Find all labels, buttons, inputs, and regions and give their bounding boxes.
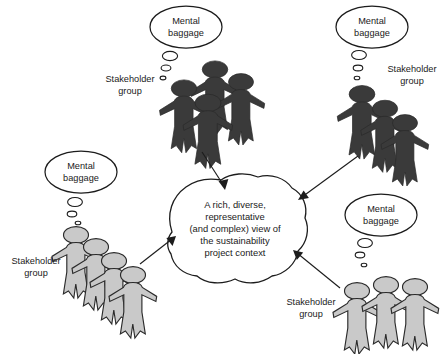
bubble-ellipse (336, 6, 408, 48)
bubble-dot-medium (355, 252, 365, 258)
bubble-line-1: Mental (172, 16, 200, 26)
bubble-line-2: baggage (354, 28, 390, 38)
bubble-ellipse (345, 194, 417, 236)
group-top-left: Mental baggage Stakeholder group (105, 6, 264, 190)
bubble-line-1: Mental (67, 161, 95, 171)
bubble-dot-small (75, 221, 81, 225)
figure-cluster-top-right (337, 86, 428, 186)
group-label-bottom-left-line-1: Stakeholder (11, 256, 60, 266)
cloud-line-1: A rich, diverse, (204, 199, 265, 210)
bubble-dot-medium (353, 65, 363, 71)
central-cloud: A rich, diverse, representative (and com… (168, 174, 308, 283)
group-bottom-right: Mental baggage Stakeholder group (286, 194, 438, 354)
thought-bubble-bottom-right: Mental baggage (345, 194, 417, 267)
cloud-line-5: project context (205, 247, 266, 258)
figure-cluster-bottom-right (333, 277, 439, 354)
group-label-bottom-right-line-2: group (299, 309, 323, 319)
bubble-dot-large (358, 239, 373, 248)
group-bottom-left: Mental baggage Stakeholder group (11, 151, 176, 338)
bubble-dot-large (162, 51, 177, 60)
figure-cluster-bottom-left (52, 227, 157, 338)
bubble-dot-large (352, 51, 367, 60)
bubble-line-1: Mental (358, 16, 386, 26)
figure-cluster-top-left (160, 61, 265, 169)
cloud-line-3: (and complex) view of (189, 223, 281, 234)
stakeholder-diagram: A rich, diverse, representative (and com… (0, 0, 441, 354)
group-label-top-right-line-2: group (400, 76, 424, 86)
person-figure (391, 279, 439, 350)
bubble-ellipse (45, 151, 117, 193)
group-label-top-left-line-2: group (118, 86, 142, 96)
cloud-line-2: representative (205, 211, 264, 222)
group-top-right: Mental baggage Stakeholder group (298, 6, 437, 200)
bubble-dot-medium (67, 211, 77, 217)
group-label-bottom-right-line-1: Stakeholder (286, 297, 335, 307)
group-label-top-right-line-1: Stakeholder (387, 64, 436, 74)
bubble-ellipse (150, 6, 222, 48)
diagram-canvas: A rich, diverse, representative (and com… (0, 0, 441, 354)
group-label-top-left-line-1: Stakeholder (105, 74, 154, 84)
bubble-dot-small (361, 263, 367, 267)
bubble-line-2: baggage (168, 28, 204, 38)
bubble-line-2: baggage (363, 216, 399, 226)
bubble-line-1: Mental (367, 204, 395, 214)
bubble-line-2: baggage (63, 173, 99, 183)
bubble-dot-small (160, 76, 166, 80)
cloud-line-4: the sustainability (200, 235, 270, 246)
bubble-dot-large (68, 198, 83, 207)
arrow-top-right-to-cloud (298, 156, 358, 200)
group-label-bottom-left-line-2: group (24, 268, 48, 278)
arrow-bottom-right-to-cloud (293, 250, 340, 288)
thought-bubble-bottom-left: Mental baggage (45, 151, 117, 225)
bubble-dot-medium (161, 65, 171, 71)
bubble-dot-small (354, 76, 360, 80)
